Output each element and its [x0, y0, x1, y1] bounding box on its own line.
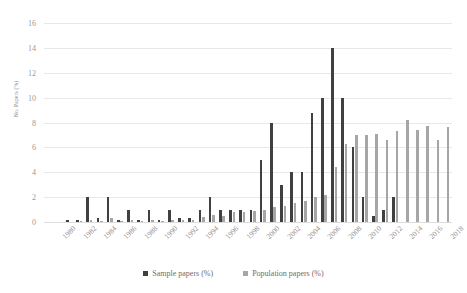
y-tick-label: 10	[28, 93, 36, 102]
bar-group	[217, 23, 227, 222]
bar-population	[386, 140, 389, 222]
x-tick-label: 1984	[101, 224, 118, 241]
x-tick-label: 1988	[142, 224, 159, 241]
bar-population	[202, 217, 205, 222]
x-tick-label: 1996	[224, 224, 241, 241]
x-tick-label: 1980	[60, 224, 77, 241]
x-tick-label: 1982	[81, 224, 98, 241]
bar-population	[161, 221, 164, 222]
bar-population	[345, 144, 348, 222]
bar-sample	[352, 147, 355, 222]
bar-sample	[321, 98, 324, 222]
bar-group	[279, 23, 289, 222]
bar-group	[442, 23, 452, 222]
bar-group	[340, 23, 350, 222]
x-tick-label: 1994	[203, 224, 220, 241]
bar-group	[432, 23, 442, 222]
bar-group	[156, 23, 166, 222]
bar-population	[151, 220, 154, 222]
bar-population	[110, 218, 113, 222]
bar-group	[289, 23, 299, 222]
bar-population	[192, 220, 195, 222]
bar-population	[100, 221, 103, 222]
bar-sample	[301, 172, 304, 222]
bar-group	[44, 23, 54, 222]
bar-group	[187, 23, 197, 222]
bar-population	[141, 221, 144, 222]
bar-group	[228, 23, 238, 222]
plot-area	[44, 23, 452, 222]
bar-population	[182, 220, 185, 222]
bar-population	[396, 131, 399, 222]
bar-population	[324, 195, 327, 222]
bar-sample	[199, 210, 202, 222]
bar-population	[80, 221, 83, 222]
y-tick-label: 14	[28, 43, 36, 52]
bar-sample	[148, 210, 151, 222]
bar-sample	[311, 113, 314, 222]
bar-group	[238, 23, 248, 222]
y-tick-label: 8	[32, 118, 36, 127]
bar-group	[421, 23, 431, 222]
bar-sample	[362, 197, 365, 222]
bar-group	[64, 23, 74, 222]
bar-sample	[117, 220, 120, 222]
bar-group	[177, 23, 187, 222]
bar-group	[75, 23, 85, 222]
x-tick-label: 2008	[346, 224, 363, 241]
legend-item[interactable]: Population papers (%)	[243, 269, 324, 278]
bar-population	[273, 207, 276, 222]
bar-sample	[209, 197, 212, 222]
x-tick-label: 2018	[448, 224, 465, 241]
bar-population	[233, 212, 236, 222]
x-tick-label: 1992	[183, 224, 200, 241]
bar-population	[416, 130, 419, 222]
y-tick-label: 0	[32, 218, 36, 227]
x-tick-label: 1998	[244, 224, 261, 241]
bar-sample	[341, 98, 344, 222]
x-tick-label: 1990	[162, 224, 179, 241]
bar-group	[248, 23, 258, 222]
bar-sample	[107, 197, 110, 222]
gridline	[44, 222, 452, 223]
bar-population	[284, 206, 287, 222]
bar-sample	[280, 185, 283, 222]
bar-sample	[331, 48, 334, 222]
x-tick-label: 1986	[122, 224, 139, 241]
bar-group	[146, 23, 156, 222]
bar-group	[268, 23, 278, 222]
bar-population	[171, 220, 174, 222]
bar-population	[437, 140, 440, 222]
bar-sample	[250, 210, 253, 222]
bar-group	[95, 23, 105, 222]
legend-item[interactable]: Sample papers (%)	[143, 269, 213, 278]
bar-population	[222, 216, 225, 222]
bar-population	[120, 221, 123, 222]
bar-sample	[86, 197, 89, 222]
bar-sample	[382, 210, 385, 222]
bar-sample	[219, 210, 222, 222]
y-tick-label: 16	[28, 19, 36, 28]
bar-population	[355, 135, 358, 222]
bar-group	[391, 23, 401, 222]
bar-sample	[97, 218, 100, 222]
y-tick-label: 4	[32, 168, 36, 177]
bar-sample	[76, 220, 79, 222]
bar-group	[258, 23, 268, 222]
bar-group	[401, 23, 411, 222]
x-tick-label: 2002	[285, 224, 302, 241]
bar-group	[370, 23, 380, 222]
bar-population	[335, 167, 338, 222]
y-axis-tick-labels: 0246810121416	[0, 0, 42, 293]
legend-swatch-icon	[143, 271, 148, 276]
bar-sample	[239, 210, 242, 222]
x-tick-label: 2004	[305, 224, 322, 241]
bar-population	[447, 127, 450, 222]
bar-sample	[168, 210, 171, 222]
bar-sample	[260, 160, 263, 222]
x-tick-label: 2006	[326, 224, 343, 241]
legend-label: Sample papers (%)	[152, 269, 213, 278]
chart-legend: Sample papers (%)Population papers (%)	[0, 269, 467, 278]
bar-sample	[137, 220, 140, 222]
x-tick-label: 2010	[366, 224, 383, 241]
